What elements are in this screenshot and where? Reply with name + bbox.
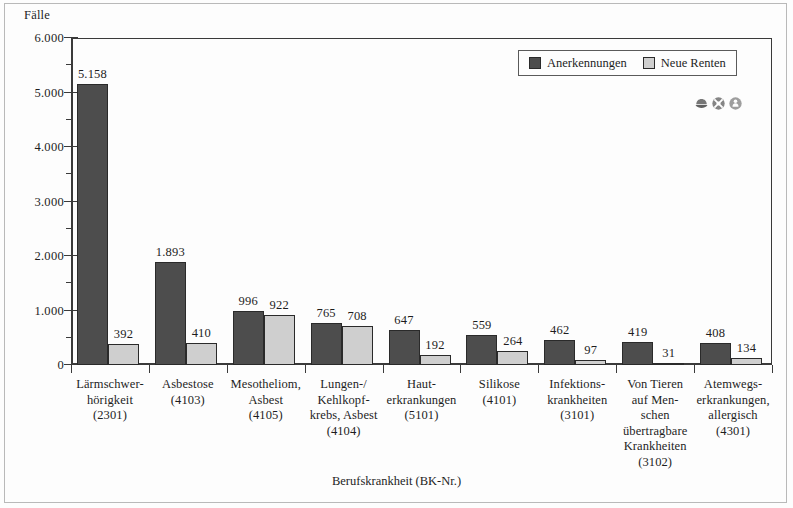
bar[interactable] — [186, 343, 217, 365]
bar[interactable] — [497, 351, 528, 365]
bar[interactable] — [575, 360, 606, 365]
y-tick-minor — [66, 64, 73, 65]
bar-value-label: 97 — [584, 343, 597, 358]
y-tick-label: 5.000 — [4, 85, 64, 100]
y-tick-label: 6.000 — [4, 31, 64, 46]
y-tick-label: 1.000 — [4, 303, 64, 318]
y-tick-label: 0 — [4, 358, 64, 373]
bar[interactable] — [342, 326, 373, 365]
y-axis-title: Fälle — [24, 8, 50, 23]
y-tick-minor — [66, 228, 73, 229]
bar[interactable] — [544, 340, 575, 365]
bar-value-label: 765 — [316, 306, 335, 321]
chart-legend: Anerkennungen Neue Renten — [518, 50, 737, 76]
bar[interactable] — [389, 330, 420, 365]
y-tick-minor — [66, 119, 73, 120]
y-tick-major — [64, 310, 78, 311]
legend-swatch-anerkennungen — [529, 57, 541, 69]
bar[interactable] — [731, 358, 762, 365]
bar[interactable] — [653, 363, 684, 365]
legend-label-neue-renten: Neue Renten — [661, 56, 726, 71]
y-tick-major — [64, 92, 78, 93]
bar-value-label: 264 — [503, 334, 522, 349]
bar-value-label: 408 — [706, 326, 725, 341]
bar-value-label: 922 — [270, 298, 289, 313]
bar[interactable] — [311, 323, 342, 365]
bar-value-label: 392 — [114, 327, 133, 342]
person-badge-icon — [728, 96, 743, 111]
bar-value-label: 708 — [347, 309, 366, 324]
y-tick-major — [64, 255, 78, 256]
bar-value-label: 1.893 — [156, 245, 185, 260]
bar[interactable] — [108, 344, 139, 365]
bar[interactable] — [622, 342, 653, 365]
bar-value-label: 559 — [472, 318, 491, 333]
legend-item-anerkennungen[interactable]: Anerkennungen — [529, 56, 627, 71]
y-tick-major — [64, 146, 78, 147]
watermark-icons — [694, 96, 743, 111]
y-tick-major — [64, 37, 78, 38]
bar-value-label: 996 — [239, 294, 258, 309]
y-tick-label: 4.000 — [4, 140, 64, 155]
x-tick — [460, 365, 461, 373]
bar-value-label: 134 — [737, 341, 756, 356]
y-tick-major — [64, 201, 78, 202]
bar[interactable] — [420, 355, 451, 365]
crossed-tools-icon — [711, 96, 726, 111]
x-tick — [227, 365, 228, 373]
legend-swatch-neue-renten — [643, 57, 655, 69]
legend-label-anerkennungen: Anerkennungen — [547, 56, 627, 71]
bar-value-label: 192 — [425, 338, 444, 353]
x-tick — [71, 365, 72, 373]
bar[interactable] — [233, 311, 264, 365]
y-tick-minor — [66, 337, 73, 338]
x-tick — [149, 365, 150, 373]
bar[interactable] — [466, 335, 497, 365]
bar[interactable] — [264, 315, 295, 365]
x-tick — [616, 365, 617, 373]
y-tick-label: 2.000 — [4, 249, 64, 264]
bar[interactable] — [700, 343, 731, 365]
x-tick — [383, 365, 384, 373]
legend-item-neue-renten[interactable]: Neue Renten — [643, 56, 726, 71]
figure-bar-chart-berufskrankheiten: Fälle 01.0002.0003.0004.0005.0006.000 5.… — [0, 0, 793, 508]
x-axis-title: Berufskrankheit (BK-Nr.) — [0, 474, 793, 489]
bar-value-label: 647 — [394, 313, 413, 328]
x-tick — [694, 365, 695, 373]
x-category-label: Atemwegs- erkrankungen, allergisch (4301… — [686, 377, 780, 439]
hand-shield-icon — [694, 96, 709, 111]
x-tick — [305, 365, 306, 373]
y-tick-label: 3.000 — [4, 194, 64, 209]
bar-value-label: 419 — [628, 325, 647, 340]
bar-value-label: 410 — [192, 326, 211, 341]
bar[interactable] — [155, 262, 186, 365]
y-tick-minor — [66, 173, 73, 174]
bar-value-label: 31 — [662, 346, 675, 361]
x-tick — [772, 365, 773, 373]
bar[interactable] — [77, 84, 108, 365]
bar-value-label: 5.158 — [78, 67, 107, 82]
y-tick-minor — [66, 282, 73, 283]
bar-value-label: 462 — [550, 323, 569, 338]
x-tick — [538, 365, 539, 373]
